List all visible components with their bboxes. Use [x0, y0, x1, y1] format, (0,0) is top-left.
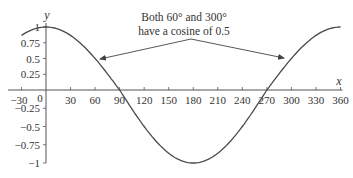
- annotation-arrow-60: [100, 39, 191, 59]
- y-tick-label: −0.5: [20, 121, 40, 133]
- y-tick-label: 0.5: [26, 53, 40, 65]
- x-tick-label: 120: [136, 94, 153, 106]
- cosine-chart: −300306090120150180210240270300330360 10…: [0, 0, 353, 178]
- x-tick-label: 30: [65, 94, 77, 106]
- y-tick-label: 0.25: [21, 68, 41, 80]
- y-tick-label: −1: [28, 157, 40, 169]
- x-tick-label: 240: [234, 94, 251, 106]
- y-tick-label: −0.25: [15, 102, 41, 114]
- x-tick-label: 360: [332, 94, 349, 106]
- y-tick-label: −0.75: [15, 139, 41, 151]
- annotation-arrow-300: [191, 39, 284, 58]
- y-tick-label: 1: [35, 21, 41, 33]
- y-axis-title: y: [43, 8, 50, 22]
- x-tick-label: 300: [283, 94, 300, 106]
- x-axis-title: x: [335, 74, 342, 88]
- x-tick-label: 60: [90, 94, 102, 106]
- x-tick-label: 180: [185, 94, 202, 106]
- x-tick-label: 330: [308, 94, 325, 106]
- annotation: Both 60° and 300° have a cosine of 0.5: [100, 11, 284, 59]
- y-tick-label: 0.75: [21, 37, 41, 49]
- x-tick-label: 150: [160, 94, 177, 106]
- annotation-line-2: have a cosine of 0.5: [138, 25, 230, 37]
- annotation-line-1: Both 60° and 300°: [141, 11, 227, 23]
- x-tick-label: 210: [210, 94, 227, 106]
- x-axis: −300306090120150180210240270300330360: [8, 87, 349, 106]
